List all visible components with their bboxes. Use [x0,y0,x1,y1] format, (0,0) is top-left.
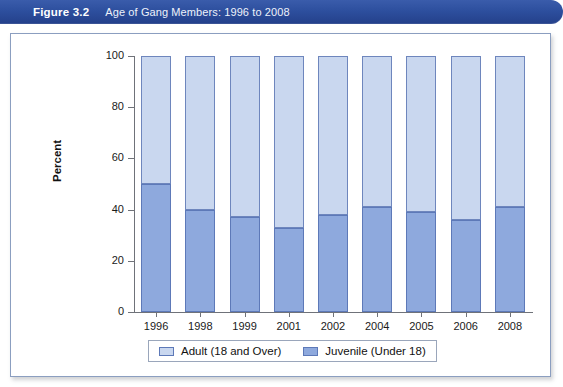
bar-segment-juvenile [406,212,436,312]
legend-item[interactable]: Juvenile (Under 18) [303,345,425,357]
legend-swatch-icon [303,347,318,356]
x-axis-tick-label: 2001 [266,320,312,332]
x-axis-tick-label: 2005 [398,320,444,332]
bar-segment-adult [495,56,525,207]
bar-segment-adult [274,56,304,228]
y-axis-title-container: Percent [57,56,77,313]
bar-group [406,56,436,312]
x-axis-tick [421,312,422,317]
bar-group [451,56,481,312]
bar-segment-adult [185,56,215,210]
bar-group [274,56,304,312]
bar-segment-juvenile [362,207,392,312]
figure-title: Age of Gang Members: 1996 to 2008 [105,6,289,18]
y-axis-tick-label: 0 [84,305,124,317]
bar-segment-juvenile [185,210,215,312]
bar-segment-adult [451,56,481,220]
x-axis-tick-label: 2002 [310,320,356,332]
legend-item[interactable]: Adult (18 and Over) [159,345,281,357]
legend-label: Adult (18 and Over) [181,345,281,357]
bar-segment-juvenile [495,207,525,312]
x-axis-tick-label: 2008 [487,320,533,332]
x-axis-tick [245,312,246,317]
x-axis-tick [377,312,378,317]
y-axis-tick-label: 40 [84,203,124,215]
plot-area [134,56,532,312]
legend-label: Juvenile (Under 18) [325,345,425,357]
x-axis-tick-label: 2004 [354,320,400,332]
figure-number: Figure 3.2 [33,6,89,18]
bar-segment-juvenile [141,184,171,312]
chart-panel: Percent 020406080100 1996199819992001200… [10,33,551,377]
y-axis-tick-label: 80 [84,100,124,112]
bar-group [495,56,525,312]
chart-legend: Adult (18 and Over)Juvenile (Under 18) [148,340,437,362]
y-axis-tick-label: 20 [84,254,124,266]
bar-segment-adult [318,56,348,215]
bar-segment-juvenile [451,220,481,312]
x-axis-tick-label: 1996 [133,320,179,332]
bar-segment-adult [362,56,392,207]
x-axis-tick-label: 2006 [443,320,489,332]
y-axis-tick-label: 60 [84,151,124,163]
x-axis-tick [156,312,157,317]
x-axis-tick [200,312,201,317]
x-axis-tick [289,312,290,317]
bar-segment-juvenile [318,215,348,312]
x-axis-tick-label: 1999 [222,320,268,332]
y-axis-title: Percent [51,140,63,182]
x-axis-tick [510,312,511,317]
bar-group [362,56,392,312]
y-axis-labels: 020406080100 [76,56,124,313]
bar-group [185,56,215,312]
bar-segment-juvenile [230,217,260,312]
x-axis-tick [466,312,467,317]
bar-segment-juvenile [274,228,304,312]
bar-group [141,56,171,312]
bar-segment-adult [230,56,260,217]
bar-group [230,56,260,312]
figure-banner: Figure 3.2 Age of Gang Members: 1996 to … [0,0,563,24]
y-axis-tick-label: 100 [84,49,124,61]
bar-group [318,56,348,312]
x-axis-tick [333,312,334,317]
bar-segment-adult [141,56,171,184]
bar-segment-adult [406,56,436,212]
legend-swatch-icon [159,347,174,356]
x-axis-tick-label: 1998 [177,320,223,332]
